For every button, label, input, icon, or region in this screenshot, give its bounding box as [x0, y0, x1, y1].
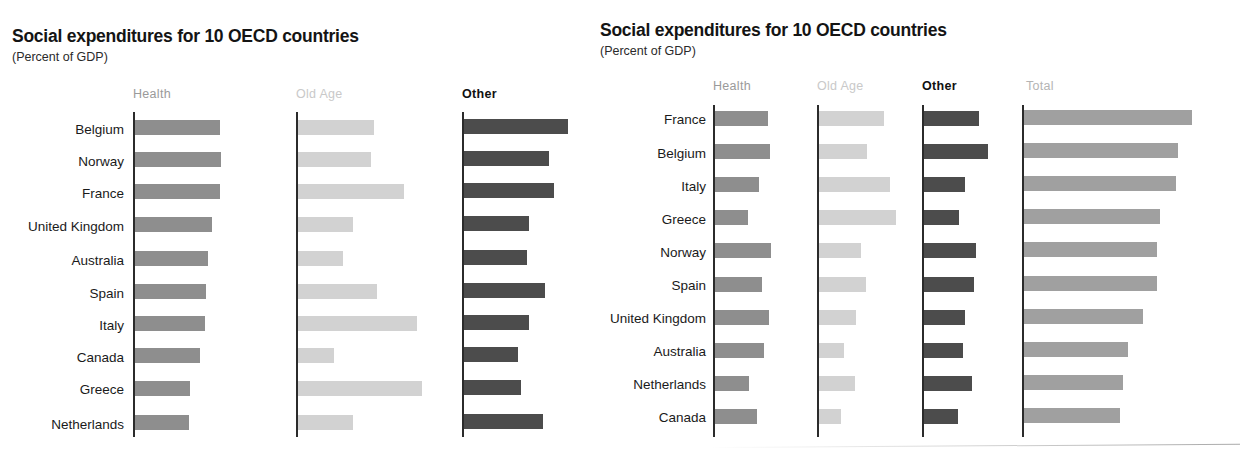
bar-old-age — [819, 376, 855, 391]
bar-health — [135, 316, 205, 331]
bar-other — [924, 277, 974, 292]
category-label: Netherlands — [0, 417, 124, 433]
bar-health — [135, 152, 221, 167]
bar-total — [1024, 408, 1120, 423]
bar-other — [464, 315, 529, 330]
bar-old-age — [819, 310, 856, 325]
bar-total — [1024, 110, 1192, 125]
bar-old-age — [819, 144, 867, 159]
bar-health — [715, 111, 768, 126]
bar-old-age — [298, 217, 353, 232]
chart-panel-left: Social expenditures for 10 OECD countrie… — [0, 0, 596, 461]
category-label: Belgium — [596, 146, 706, 162]
page-title: Social expenditures for 10 OECD countrie… — [600, 20, 947, 41]
bar-other — [464, 216, 529, 231]
category-label: United Kingdom — [596, 311, 706, 327]
bar-health — [715, 343, 764, 358]
category-label: Greece — [0, 382, 124, 398]
category-label: Netherlands — [596, 377, 706, 393]
category-label: Spain — [596, 278, 706, 294]
category-label: France — [596, 112, 706, 128]
bar-old-age — [819, 343, 844, 358]
bar-other — [924, 243, 976, 258]
bar-health — [715, 310, 769, 325]
bar-old-age — [819, 111, 884, 126]
category-label: United Kingdom — [0, 219, 124, 235]
bar-other — [924, 210, 959, 225]
bar-total — [1024, 309, 1143, 324]
category-label: Greece — [596, 212, 706, 228]
column-header-health: Health — [713, 79, 751, 93]
bar-health — [715, 409, 757, 424]
bar-old-age — [298, 284, 377, 299]
bar-total — [1024, 342, 1128, 357]
bar-other — [464, 380, 521, 395]
bar-old-age — [298, 348, 334, 363]
bar-old-age — [298, 415, 353, 430]
bar-old-age — [298, 152, 371, 167]
category-label: Italy — [0, 318, 124, 334]
category-label: Norway — [596, 245, 706, 261]
column-header-other: Other — [922, 79, 957, 93]
column-header-other: Other — [462, 87, 497, 101]
category-label: Norway — [0, 154, 124, 170]
bar-other — [464, 283, 545, 298]
page-title: Social expenditures for 10 OECD countrie… — [12, 26, 359, 47]
bar-other — [924, 177, 965, 192]
bar-other — [924, 111, 979, 126]
column-header-old-age: Old Age — [817, 79, 864, 93]
bar-health — [135, 284, 206, 299]
bar-health — [135, 184, 220, 199]
column-header-total: Total — [1026, 79, 1054, 93]
bar-health — [135, 217, 212, 232]
category-label: Spain — [0, 286, 124, 302]
bar-other — [464, 250, 527, 265]
bar-total — [1024, 209, 1160, 224]
category-label: Belgium — [0, 122, 124, 138]
bar-health — [715, 376, 749, 391]
chart-panel-right: Social expenditures for 10 OECD countrie… — [596, 0, 1240, 461]
category-label: Australia — [0, 253, 124, 269]
bar-total — [1024, 176, 1176, 191]
bar-other — [464, 414, 543, 429]
column-header-health: Health — [133, 87, 171, 101]
bar-old-age — [298, 120, 374, 135]
category-label: Canada — [596, 410, 706, 426]
bar-old-age — [819, 210, 896, 225]
bar-old-age — [298, 251, 343, 266]
category-label: Canada — [0, 350, 124, 366]
bar-health — [135, 415, 189, 430]
bar-health — [715, 210, 748, 225]
bar-health — [715, 144, 770, 159]
bar-old-age — [819, 177, 890, 192]
bar-total — [1024, 276, 1157, 291]
bar-other — [464, 347, 518, 362]
bar-old-age — [819, 243, 861, 258]
bar-total — [1024, 143, 1178, 158]
bar-health — [135, 348, 200, 363]
category-label: Italy — [596, 179, 706, 195]
bar-old-age — [298, 184, 404, 199]
bar-total — [1024, 242, 1157, 257]
bar-other — [464, 119, 568, 134]
bar-other — [924, 144, 988, 159]
bar-other — [924, 376, 972, 391]
bar-health — [135, 381, 190, 396]
bar-health — [715, 177, 759, 192]
bar-health — [135, 120, 220, 135]
bar-old-age — [819, 277, 866, 292]
column-header-old-age: Old Age — [296, 87, 343, 101]
category-label: France — [0, 186, 124, 202]
bar-health — [715, 277, 762, 292]
bar-total — [1024, 375, 1123, 390]
bar-old-age — [298, 316, 417, 331]
bar-old-age — [298, 381, 422, 396]
bar-other — [924, 343, 963, 358]
bar-health — [135, 251, 208, 266]
category-label: Australia — [596, 344, 706, 360]
bar-old-age — [819, 409, 841, 424]
chart-subtitle: (Percent of GDP) — [12, 50, 108, 64]
bar-other — [924, 310, 965, 325]
bar-other — [924, 409, 958, 424]
chart-subtitle: (Percent of GDP) — [600, 44, 696, 58]
